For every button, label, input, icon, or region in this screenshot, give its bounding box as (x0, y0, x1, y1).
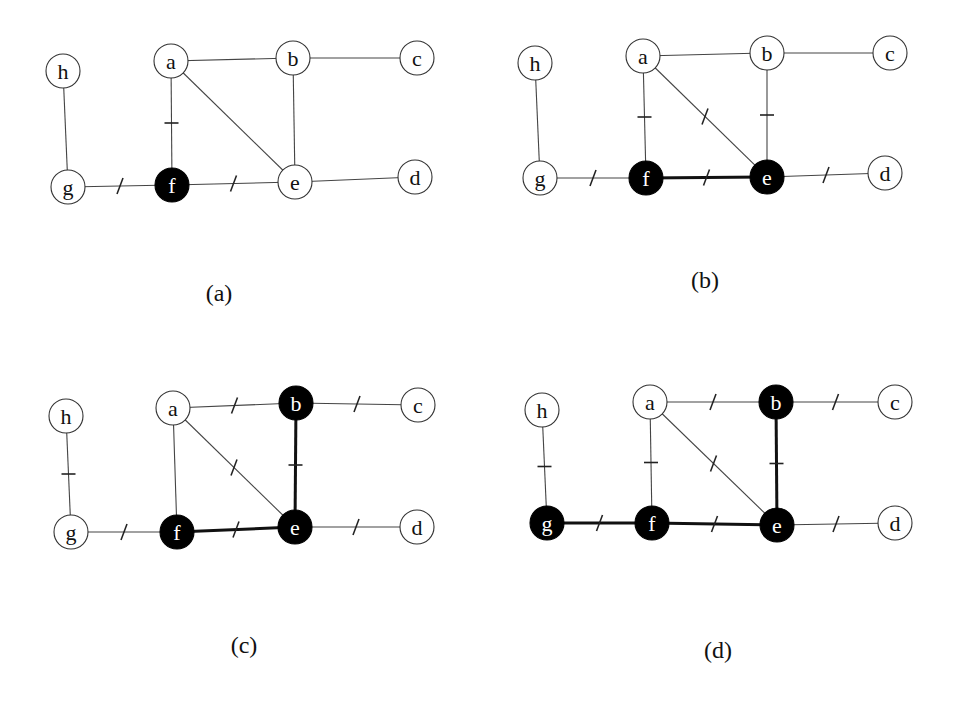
node-c: c (401, 388, 435, 422)
node-b: b (276, 41, 310, 75)
node-label: g (63, 175, 74, 200)
node-d: d (400, 510, 434, 544)
node-label: g (535, 166, 546, 191)
node-g: g (523, 161, 557, 195)
edge-mark-a-e (702, 109, 708, 125)
edge-mark-a-e (711, 456, 717, 472)
node-a: a (633, 385, 667, 419)
panel-d: habcgfed(d) (525, 385, 912, 663)
node-b: b (759, 385, 793, 419)
node-a: a (626, 39, 660, 73)
node-a: a (156, 391, 190, 425)
node-label: b (291, 391, 302, 416)
node-label: f (173, 520, 181, 545)
panel-caption: (d) (704, 637, 732, 663)
graph-figure: habcgfed(a) habcgfed(b) habcgfed(c) habc… (0, 0, 959, 710)
edge-a-b (171, 58, 293, 61)
node-label: g (66, 520, 77, 545)
node-e: e (278, 165, 312, 199)
panel-caption: (b) (691, 267, 719, 293)
node-g: g (530, 506, 564, 540)
panel-c: habcgfed(c) (49, 386, 435, 658)
node-c: c (873, 36, 907, 70)
node-label: d (412, 515, 423, 540)
node-b: b (279, 386, 313, 420)
node-label: b (762, 41, 773, 66)
node-label: h (58, 59, 69, 84)
node-d: d (868, 156, 902, 190)
edge-e-d (295, 177, 415, 182)
node-d: d (398, 160, 432, 194)
node-label: h (537, 398, 548, 423)
node-label: f (168, 173, 176, 198)
node-label: a (645, 390, 655, 415)
node-e: e (278, 510, 312, 544)
node-label: h (61, 404, 72, 429)
node-label: d (880, 161, 891, 186)
node-c: c (400, 41, 434, 75)
node-label: c (890, 390, 900, 415)
panel-caption: (a) (206, 280, 233, 306)
node-g: g (54, 515, 88, 549)
node-label: f (648, 511, 656, 536)
node-f: f (160, 515, 194, 549)
node-label: e (772, 513, 782, 538)
node-g: g (51, 170, 85, 204)
node-label: a (168, 396, 178, 421)
node-e: e (760, 508, 794, 542)
node-label: c (885, 41, 895, 66)
node-label: e (762, 165, 772, 190)
node-label: d (890, 511, 901, 536)
node-b: b (750, 36, 784, 70)
node-label: e (290, 515, 300, 540)
node-label: f (642, 166, 650, 191)
node-c: c (878, 385, 912, 419)
node-label: a (166, 49, 176, 74)
node-e: e (750, 160, 784, 194)
node-a: a (154, 44, 188, 78)
panel-b: habcgfed(b) (518, 36, 907, 293)
node-label: d (410, 165, 421, 190)
node-label: e (290, 170, 300, 195)
node-label: b (288, 46, 299, 71)
node-label: h (530, 51, 541, 76)
panel-caption: (c) (231, 632, 258, 658)
node-label: a (638, 44, 648, 69)
node-f: f (155, 168, 189, 202)
node-label: c (412, 46, 422, 71)
node-d: d (878, 506, 912, 540)
edge-a-b (643, 53, 767, 56)
edge-a-e (171, 61, 295, 182)
node-f: f (629, 161, 663, 195)
edge-b-e (293, 58, 295, 182)
node-label: g (542, 511, 553, 536)
node-h: h (49, 399, 83, 433)
node-h: h (525, 393, 559, 427)
node-label: c (413, 393, 423, 418)
edge-a-f (173, 408, 177, 532)
node-h: h (518, 46, 552, 80)
node-f: f (635, 506, 669, 540)
panel-a: habcgfed(a) (46, 41, 434, 306)
edge-mark-a-e (231, 460, 237, 476)
node-h: h (46, 54, 80, 88)
node-label: b (771, 390, 782, 415)
